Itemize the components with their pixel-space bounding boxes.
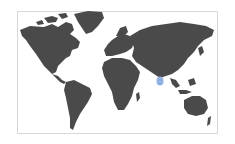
region-new-zealand[interactable] bbox=[207, 116, 211, 126]
region-europe[interactable] bbox=[104, 34, 134, 56]
region-central-america[interactable] bbox=[52, 74, 66, 84]
region-japan[interactable] bbox=[198, 46, 204, 56]
region-arctic-islands[interactable] bbox=[36, 13, 68, 25]
region-australia[interactable] bbox=[184, 96, 208, 116]
region-north-america[interactable] bbox=[20, 22, 80, 74]
region-southeast-asia[interactable] bbox=[170, 78, 196, 94]
region-greenland[interactable] bbox=[74, 11, 104, 34]
region-scandinavia[interactable] bbox=[116, 26, 128, 36]
region-africa[interactable] bbox=[102, 58, 140, 110]
region-south-america[interactable] bbox=[64, 80, 92, 130]
region-madagascar[interactable] bbox=[136, 92, 140, 102]
highlight-sri-lanka[interactable] bbox=[157, 77, 164, 86]
world-map[interactable] bbox=[0, 0, 235, 144]
